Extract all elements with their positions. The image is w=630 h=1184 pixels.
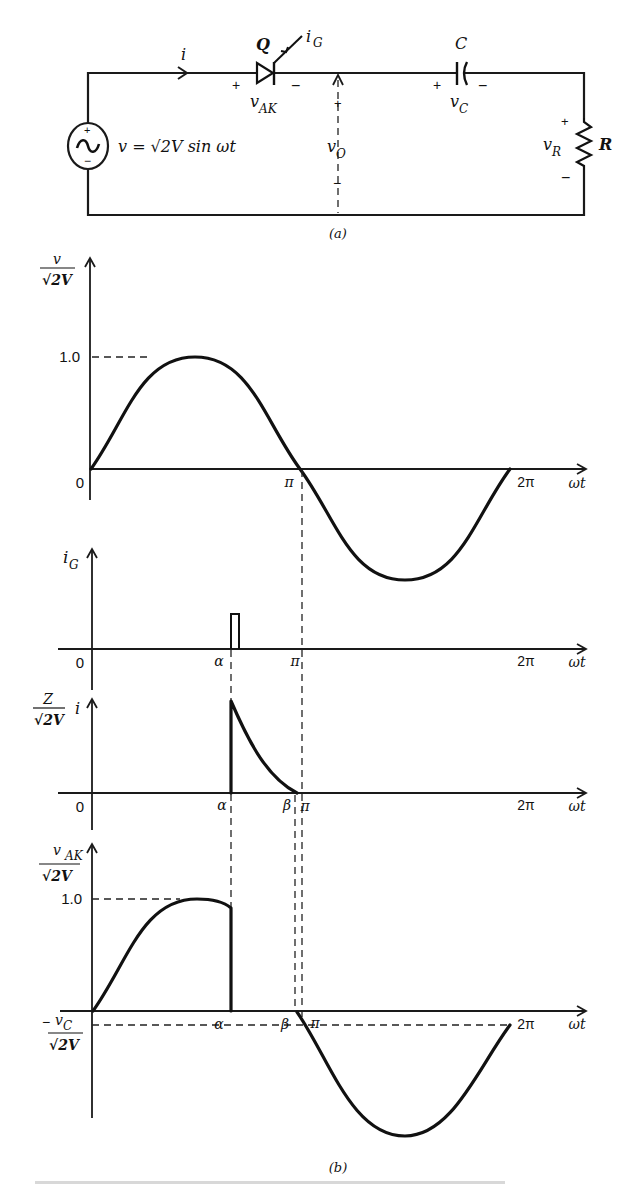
plot3-ylabel-suffix: i <box>75 699 80 718</box>
source-equation: v = √2V sin ωt <box>118 137 236 156</box>
resistor-voltage-sub: R <box>551 145 561 159</box>
gate-current-main: i <box>306 27 311 46</box>
gate-current-sub: G <box>313 36 323 50</box>
plot1-tick-pi: π <box>283 474 294 490</box>
plot3-ylabel-num: Z <box>42 691 53 707</box>
capacitor-voltage-sub: C <box>459 102 468 116</box>
plot3-xlabel: ωt <box>568 798 585 814</box>
plot4-neg-prefix: − <box>42 1014 50 1030</box>
plot3-tick-pi: π <box>299 798 310 814</box>
scr-voltage-sub: AK <box>258 102 278 116</box>
plot1-ylabel-num: v <box>53 251 61 267</box>
plot4-neg-num-sub: C <box>63 1019 72 1033</box>
plot3-tick-zero: 0 <box>76 798 84 815</box>
plot2-tick-zero: 0 <box>76 654 84 671</box>
current-label: i <box>181 45 186 64</box>
resistor-voltage-main: v <box>543 135 552 154</box>
plot-anode-cathode-voltage: v AK √2V 1.0 − v C √2V α β π 2π ωt <box>39 842 586 1136</box>
plot2-xlabel: ωt <box>568 654 585 670</box>
plot4-reverse-curve <box>297 1012 510 1136</box>
plot4-ylabel-num-sub: AK <box>64 849 84 863</box>
plot4-neg-den: √2V <box>49 1037 81 1053</box>
source-plus: + <box>84 124 90 136</box>
plot4-tick-pi: π <box>309 1015 320 1031</box>
plot2-tick-pi: π <box>289 653 300 669</box>
output-plus: + <box>334 96 342 111</box>
plot4-tick-one: 1.0 <box>61 890 82 907</box>
plot1-ylabel-den: √2V <box>42 272 74 288</box>
plot-load-current: Z √2V i 0 α β π 2π ωt <box>33 691 586 830</box>
plot4-blocking-curve <box>93 899 231 1011</box>
plot2-tick-alpha: α <box>214 653 224 669</box>
plot3-current-curve <box>231 701 297 793</box>
plot-gate-current: i G 0 α π 2π ωt <box>58 547 586 690</box>
plot3-ylabel-den: √2V <box>34 712 66 728</box>
plot4-ylabel-num-main: v <box>53 842 61 858</box>
output-voltage-main: v <box>327 137 336 156</box>
plot4-tick-2pi: 2π <box>517 1016 535 1032</box>
plot4-xlabel: ωt <box>568 1016 585 1032</box>
plot4-ylabel-den: √2V <box>42 868 74 884</box>
scr-name: Q <box>256 35 270 54</box>
plot1-tick-one: 1.0 <box>59 348 80 365</box>
scr-minus: − <box>291 77 300 94</box>
plot1-tick-zero: 0 <box>76 474 84 491</box>
part-a-label: (a) <box>329 226 347 241</box>
capacitor-voltage-main: v <box>450 92 459 111</box>
plot3-tick-2pi: 2π <box>517 797 535 813</box>
resistor-name: R <box>598 135 612 154</box>
capacitor-name: C <box>455 34 467 53</box>
plot1-tick-2pi: 2π <box>517 474 535 490</box>
output-minus: − <box>333 175 341 191</box>
plot1-xlabel: ωt <box>568 475 585 491</box>
circuit-diagram: i + − v = √2V sin ωt Q i G + − v AK + v … <box>68 27 612 241</box>
scr-voltage-main: v <box>250 92 259 111</box>
plot4-tick-alpha: α <box>214 1016 224 1032</box>
plot2-tick-2pi: 2π <box>517 653 535 669</box>
scr-plus: + <box>232 77 240 93</box>
source-minus: − <box>84 154 91 168</box>
plot2-ylabel-main: i <box>63 547 68 567</box>
part-b-label: (b) <box>329 1160 347 1175</box>
output-voltage-sub: O <box>336 147 346 161</box>
resistor-minus: − <box>561 169 570 186</box>
capacitor-minus: − <box>478 77 487 94</box>
resistor-plus: + <box>561 114 569 129</box>
plot3-tick-beta: β <box>282 797 291 813</box>
plot2-gate-pulse <box>231 614 239 649</box>
figure-canvas: i + − v = √2V sin ωt Q i G + − v AK + v … <box>0 0 630 1184</box>
plot-source-voltage: v √2V 1.0 0 π 2π ωt <box>40 251 586 580</box>
plot3-tick-alpha: α <box>217 797 227 813</box>
resistor-icon <box>577 118 591 170</box>
plot4-neg-num-main: v <box>55 1012 63 1028</box>
plot4-tick-beta: β <box>280 1016 289 1032</box>
plot2-ylabel-sub: G <box>69 558 79 572</box>
capacitor-plus: + <box>433 77 441 93</box>
